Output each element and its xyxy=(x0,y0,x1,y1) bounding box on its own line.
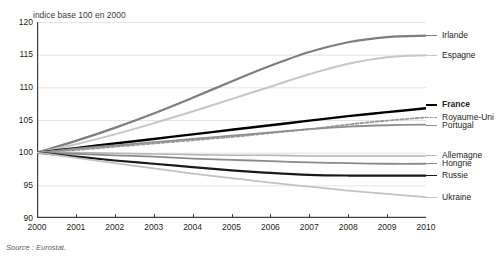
x-axis-labels: 2000200120022003200420052006200720082009… xyxy=(37,222,426,236)
x-axis-tick-2007: 2007 xyxy=(289,222,329,232)
series-label-irlande: Irlande xyxy=(442,31,468,40)
series-swatch-ukraine xyxy=(426,197,437,198)
y-axis-labels: 1201151101051009590 xyxy=(0,22,33,218)
series-label-espagne: Espagne xyxy=(442,51,476,60)
series-label-france: France xyxy=(442,100,470,109)
x-axis-tick-2005: 2005 xyxy=(212,222,252,232)
series-swatch-russie xyxy=(426,175,437,176)
x-axis-tick-2008: 2008 xyxy=(328,222,368,232)
chart-svg xyxy=(37,22,426,218)
series-swatch-portugal xyxy=(426,125,437,126)
series-swatch-france xyxy=(426,104,437,106)
series-label-russie: Russie xyxy=(442,171,468,180)
series-label-portugal: Portugal xyxy=(442,121,474,130)
series-label-hongrie: Hongrie xyxy=(442,159,472,168)
series-swatch-allemagne xyxy=(426,155,437,156)
chart-subtitle: indice base 100 en 2000 xyxy=(33,10,126,20)
x-axis-tick-2003: 2003 xyxy=(134,222,174,232)
y-axis-tick-90: 90 xyxy=(7,213,33,223)
series-swatch-hongrie xyxy=(426,163,437,164)
y-axis-tick-110: 110 xyxy=(7,82,33,92)
chart-figure: évolution comparée indice base 100 en 20… xyxy=(0,0,503,263)
y-axis-tick-115: 115 xyxy=(7,49,33,59)
x-axis-tick-2000: 2000 xyxy=(17,222,57,232)
series-line-france xyxy=(37,108,426,152)
plot-area xyxy=(37,22,426,218)
x-axis-tick-2006: 2006 xyxy=(250,222,290,232)
series-label-list: IrlandeEspagneFranceRoyaume-UniPortugalA… xyxy=(428,0,503,263)
series-label-ukraine: Ukraine xyxy=(442,193,471,202)
y-axis-tick-100: 100 xyxy=(7,147,33,157)
y-axis-tick-95: 95 xyxy=(7,180,33,190)
x-axis-tick-2002: 2002 xyxy=(95,222,135,232)
series-swatch-royaume-uni xyxy=(426,117,437,118)
x-axis-tick-2004: 2004 xyxy=(173,222,213,232)
series-swatch-irlande xyxy=(426,35,437,36)
series-swatch-espagne xyxy=(426,55,437,56)
x-axis-tick-2009: 2009 xyxy=(367,222,407,232)
y-axis-tick-105: 105 xyxy=(7,115,33,125)
x-axis-tick-2001: 2001 xyxy=(56,222,96,232)
series-line-espagne xyxy=(37,55,426,152)
chart-source: Source : Eurostat. xyxy=(6,243,66,252)
y-axis-tick-120: 120 xyxy=(7,17,33,27)
